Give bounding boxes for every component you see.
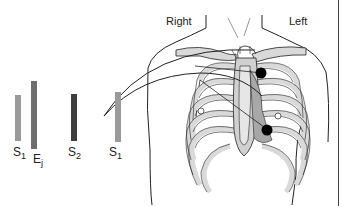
label-s1-first: S1 [13, 146, 26, 161]
label-ej: Ej [33, 153, 43, 168]
bar-s1-second [115, 92, 121, 142]
label-s1-second: S1 [109, 146, 122, 161]
auscultation-figure: Right Left S1 Ej S2 S1 [0, 0, 341, 206]
bar-s2 [71, 94, 77, 141]
bar-ej [31, 81, 37, 149]
label-left: Left [289, 16, 307, 27]
label-right: Right [166, 16, 192, 27]
chest-illustration [0, 0, 341, 206]
marker-lower-dot [262, 125, 273, 136]
bar-s1-first [15, 95, 21, 141]
label-s2: S2 [68, 146, 81, 161]
right-border-line [338, 0, 339, 206]
marker-upper-dot [256, 68, 267, 79]
